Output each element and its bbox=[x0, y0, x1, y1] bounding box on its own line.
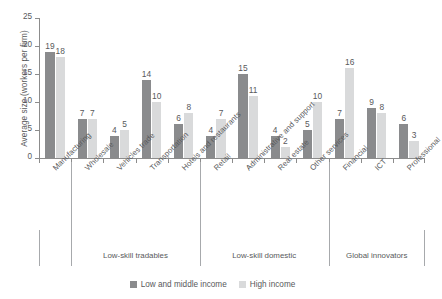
x-axis-tick bbox=[264, 158, 265, 163]
x-axis-tick bbox=[39, 158, 40, 163]
x-axis-category-label: ICT bbox=[373, 157, 388, 172]
group-label: Low-skill domestic bbox=[204, 251, 324, 260]
legend-label: Low and middle income bbox=[141, 280, 227, 289]
group-label: Global innovators bbox=[317, 251, 437, 260]
group-band: Low-skill tradablesLow-skill domesticGlo… bbox=[39, 230, 425, 266]
x-axis-tick bbox=[103, 158, 104, 163]
bar-value-label: 3 bbox=[404, 130, 423, 140]
x-axis-tick bbox=[393, 158, 394, 163]
legend-item-low-and-middle-income: Low and middle income bbox=[130, 280, 227, 289]
bar-value-label: 15 bbox=[233, 63, 252, 73]
group-separator bbox=[71, 230, 72, 266]
bar-value-label: 6 bbox=[169, 113, 188, 123]
bar-value-label: 10 bbox=[147, 91, 166, 101]
y-axis-title: Average size (workers per firm) bbox=[20, 14, 29, 164]
y-axis-tick-label: 15 bbox=[23, 68, 32, 77]
y-axis-tick-label: 20 bbox=[23, 40, 32, 49]
legend-label: High income bbox=[250, 280, 296, 289]
bar-value-label: 14 bbox=[137, 69, 156, 79]
bar-value-label: 8 bbox=[372, 102, 391, 112]
y-axis-tick-label: 10 bbox=[23, 96, 32, 105]
bar-high-income bbox=[249, 96, 258, 158]
y-axis-line bbox=[39, 18, 40, 158]
bar-value-label: 7 bbox=[330, 108, 349, 118]
bar-value-label: 7 bbox=[83, 108, 102, 118]
y-axis-tick: 25 bbox=[35, 18, 40, 19]
bar-low-and-middle-income bbox=[45, 52, 54, 158]
bar-value-label: 8 bbox=[179, 102, 198, 112]
legend-item-high-income: High income bbox=[239, 280, 296, 289]
bar-value-label: 11 bbox=[244, 85, 263, 95]
bar-high-income bbox=[152, 102, 161, 158]
y-axis-tick-label: 0 bbox=[27, 152, 32, 161]
group-separator-extension bbox=[71, 162, 72, 230]
bar-high-income bbox=[313, 102, 322, 158]
bar-value-label: 7 bbox=[211, 108, 230, 118]
y-axis-tick: 15 bbox=[35, 74, 40, 75]
bar-value-label: 18 bbox=[51, 46, 70, 56]
legend-swatch-icon bbox=[130, 281, 137, 288]
bar-high-income bbox=[56, 57, 65, 158]
y-axis-tick: 20 bbox=[35, 46, 40, 47]
y-axis-tick-label: 5 bbox=[27, 124, 32, 133]
y-axis-tick: 5 bbox=[35, 130, 40, 131]
x-axis-tick bbox=[136, 158, 137, 163]
group-separator bbox=[200, 230, 201, 266]
bar-value-label: 6 bbox=[394, 113, 413, 123]
bar-value-label: 5 bbox=[115, 119, 134, 129]
chart-legend: Low and middle income High income bbox=[0, 280, 425, 289]
bar-value-label: 16 bbox=[340, 57, 359, 67]
group-separator bbox=[424, 230, 425, 266]
y-axis-tick-label: 25 bbox=[23, 12, 32, 21]
x-axis-tick bbox=[232, 158, 233, 163]
plot-area: 0510152025191877451410684715114251071698… bbox=[39, 18, 425, 158]
bar-high-income bbox=[377, 113, 386, 158]
group-separator-extension bbox=[329, 162, 330, 230]
group-separator-extension bbox=[200, 162, 201, 230]
group-separator bbox=[39, 230, 40, 266]
group-label: Low-skill tradables bbox=[76, 251, 196, 260]
y-axis-tick: 10 bbox=[35, 102, 40, 103]
x-axis-tick bbox=[296, 158, 297, 163]
legend-swatch-icon bbox=[239, 281, 246, 288]
group-separator bbox=[329, 230, 330, 266]
